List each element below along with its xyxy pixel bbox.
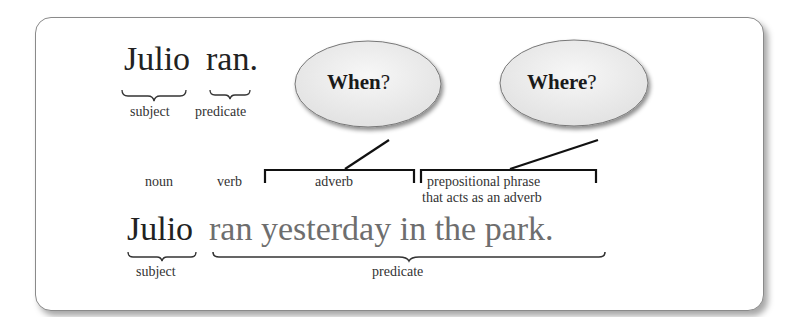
verb-label: verb bbox=[217, 174, 242, 190]
example1-predicate-word: ran. bbox=[206, 40, 258, 78]
prep-phrase-label-line1: prepositional phrase bbox=[427, 174, 540, 190]
example1-subject-word: Julio bbox=[124, 40, 190, 78]
noun-label: noun bbox=[145, 174, 173, 190]
where-label: Where? bbox=[527, 70, 597, 95]
adverb-label: adverb bbox=[315, 174, 353, 190]
example1-predicate-label: predicate bbox=[195, 104, 246, 120]
example2-subject-label: subject bbox=[136, 264, 176, 280]
example2-subject-word: Julio bbox=[127, 210, 193, 248]
example2-predicate-label: predicate bbox=[372, 264, 423, 280]
example2-predicate-text: ran yesterday in the park. bbox=[209, 210, 554, 248]
example1-subject-label: subject bbox=[130, 104, 170, 120]
prep-phrase-label-line2: that acts as an adverb bbox=[422, 190, 542, 206]
when-label: When? bbox=[327, 70, 390, 95]
